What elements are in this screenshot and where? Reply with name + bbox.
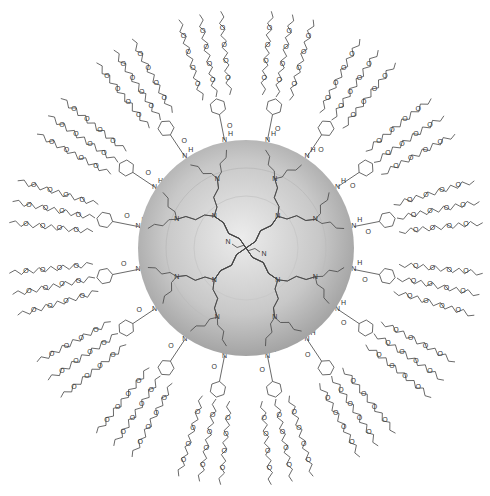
ether-oxygen: O: [361, 390, 367, 397]
carbonyl-oxygen: O: [137, 306, 143, 313]
ether-oxygen: O: [460, 287, 466, 294]
ether-oxygen: O: [59, 367, 65, 374]
carbonyl-oxygen: O: [341, 319, 347, 326]
ether-oxygen: O: [47, 302, 53, 309]
ether-oxygen: O: [57, 224, 63, 231]
ether-oxygen: O: [277, 411, 283, 418]
ether-oxygen: O: [136, 111, 142, 118]
ether-oxygen: O: [463, 220, 469, 227]
ether-oxygen: O: [283, 43, 289, 50]
ether-oxygen: O: [64, 146, 70, 153]
ether-oxygen: O: [148, 102, 154, 109]
ether-oxygen: O: [79, 292, 85, 299]
ether-oxygen: O: [292, 80, 298, 87]
ether-oxygen: O: [148, 386, 154, 393]
ether-oxygen: O: [200, 461, 206, 468]
benzene-ring: [210, 381, 225, 397]
ether-oxygen: O: [195, 80, 201, 87]
ether-oxygen: O: [222, 41, 228, 48]
ether-oxygen: O: [296, 424, 302, 431]
carbonyl-oxygen: O: [350, 182, 356, 189]
ether-oxygen: O: [84, 115, 90, 122]
ether-oxygen: O: [186, 440, 192, 447]
ether-oxygen: O: [283, 444, 289, 451]
ether-oxygen: O: [43, 284, 49, 291]
ether-oxygen: O: [444, 284, 450, 291]
carbonyl-oxygen: O: [318, 146, 324, 153]
ether-oxygen: O: [40, 222, 46, 229]
ether-oxygen: O: [59, 121, 65, 128]
ether-oxygen: O: [301, 440, 307, 447]
ether-oxygen: O: [87, 348, 93, 355]
benzene-ring: [158, 121, 174, 135]
ether-oxygen: O: [225, 414, 231, 421]
ether-oxygen: O: [447, 222, 453, 229]
ether-oxygen: O: [73, 357, 79, 364]
ether-oxygen: O: [125, 98, 131, 105]
ether-oxygen: O: [385, 149, 391, 156]
ether-oxygen: O: [325, 394, 331, 401]
ether-oxygen: O: [385, 339, 391, 346]
ether-oxygen: O: [76, 211, 82, 218]
ether-oxygen: O: [137, 50, 143, 57]
benzene-ring: [97, 212, 113, 227]
ether-oxygen: O: [351, 111, 357, 118]
ether-oxygen: O: [261, 414, 267, 421]
ether-oxygen: O: [139, 88, 145, 95]
ether-oxygen: O: [347, 88, 353, 95]
ether-oxygen: O: [97, 126, 103, 133]
ether-oxygen: O: [125, 390, 131, 397]
ether-oxygen: O: [210, 411, 216, 418]
ether-oxygen: O: [64, 342, 70, 349]
benzene-ring: [119, 160, 133, 176]
ether-oxygen: O: [267, 24, 273, 31]
carbonyl-oxygen: O: [227, 122, 233, 129]
ether-oxygen: O: [444, 204, 450, 211]
ether-oxygen: O: [349, 50, 355, 57]
ether-oxygen: O: [104, 416, 110, 423]
amide-hydrogen: H: [341, 299, 346, 306]
ether-oxygen: O: [181, 456, 187, 463]
carbonyl-oxygen: O: [275, 125, 281, 132]
ether-oxygen: O: [408, 334, 414, 341]
ether-oxygen: O: [23, 267, 29, 274]
benzene-ring: [359, 320, 373, 336]
ether-oxygen: O: [333, 409, 339, 416]
ether-oxygen: O: [110, 351, 116, 358]
benzene-ring: [210, 99, 225, 115]
carbonyl-oxygen: O: [145, 169, 151, 176]
ether-oxygen: O: [357, 414, 363, 421]
ether-oxygen: O: [407, 196, 413, 203]
ether-oxygen: O: [200, 27, 206, 34]
ether-oxygen: O: [31, 306, 37, 313]
ether-oxygen: O: [286, 27, 292, 34]
benzene-ring: [158, 361, 174, 375]
ether-oxygen: O: [71, 105, 77, 112]
ether-oxygen: O: [357, 74, 363, 81]
ether-oxygen: O: [427, 280, 433, 287]
core-nitrogen: N: [261, 250, 266, 257]
branch-nitrogen: N: [313, 215, 318, 222]
ether-oxygen: O: [411, 277, 417, 284]
benzene-ring: [267, 381, 282, 397]
ether-oxygen: O: [399, 348, 405, 355]
ether-oxygen: O: [393, 162, 399, 169]
ether-oxygen: O: [63, 191, 69, 198]
ether-oxygen: O: [220, 24, 226, 31]
ether-oxygen: O: [267, 464, 273, 471]
ether-oxygen: O: [203, 43, 209, 50]
ether-oxygen: O: [130, 414, 136, 421]
ether-oxygen: O: [280, 60, 286, 67]
ether-oxygen: O: [427, 207, 433, 214]
ether-oxygen: O: [115, 403, 121, 410]
ether-oxygen: O: [341, 423, 347, 430]
ether-oxygen: O: [393, 326, 399, 333]
ether-oxygen: O: [413, 262, 419, 269]
ether-oxygen: O: [333, 79, 339, 86]
ether-oxygen: O: [222, 447, 228, 454]
benzene-ring: [359, 160, 373, 176]
ether-oxygen: O: [338, 386, 344, 393]
ether-oxygen: O: [376, 137, 382, 144]
ether-oxygen: O: [376, 351, 382, 358]
ether-oxygen: O: [101, 339, 107, 346]
